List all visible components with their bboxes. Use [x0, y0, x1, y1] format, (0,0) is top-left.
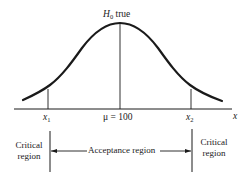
- left-critical-line2: region: [12, 151, 46, 162]
- right-critical-line2: region: [197, 148, 231, 159]
- x1-subscript: 1: [47, 116, 50, 123]
- left-critical-line1: Critical: [12, 140, 46, 151]
- right-critical-region-label: Critical region: [197, 137, 231, 158]
- h0-subscript: 0: [110, 13, 113, 20]
- x2-subscript: 2: [190, 116, 193, 123]
- left-critical-region-label: Critical region: [12, 140, 46, 161]
- normal-curve: [23, 23, 222, 101]
- h0-suffix: true: [113, 9, 130, 19]
- acceptance-region-label: Acceptance region: [88, 145, 155, 155]
- h0-main: H: [103, 9, 110, 19]
- x2-tick-label: x2: [186, 112, 193, 123]
- right-critical-line1: Critical: [197, 137, 231, 148]
- arrowhead-right-icon: [185, 149, 191, 153]
- mu-tick-label: μ = 100: [103, 112, 132, 122]
- h0-true-label: H0 true: [103, 9, 130, 20]
- x1-tick-label: x1: [43, 112, 50, 123]
- x-axis-label: x: [233, 111, 237, 121]
- arrowhead-left-icon: [51, 149, 57, 153]
